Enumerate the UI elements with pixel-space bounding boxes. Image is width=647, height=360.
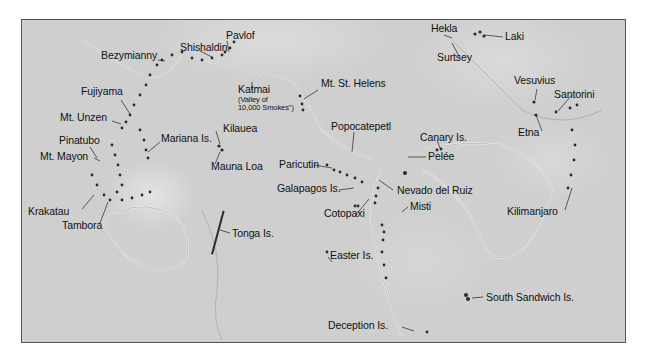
volcano-label-pinatubo: Pinatubo [59,135,100,146]
volcano-label-mariana-is: Mariana Is. [161,133,212,144]
volcano-label-krakatau: Krakatau [28,206,69,217]
world-volcano-map: Bezymianny Shishaldin Pavlof Katmai (Val… [21,19,626,343]
volcano-label-pelee: Pelée [428,151,454,162]
volcano-label-fujiyama: Fujiyama [81,86,123,97]
volcano-label-kilimanjaro: Kilimanjaro [507,206,558,217]
volcano-label-etna: Etna [518,127,539,138]
volcano-label-canary-is: Canary Is. [420,132,467,143]
volcano-label-cotopaxi: Cotopaxi [324,208,365,219]
volcano-label-surtsey: Surtsey [437,52,472,63]
volcano-sublabel-katmai-2: 10,000 Smokes") [238,104,294,112]
volcano-label-paricutin: Paricutin [279,159,319,170]
volcano-label-laki: Laki [505,31,524,42]
volcano-label-bezymianny: Bezymianny [101,50,157,61]
volcano-label-santorini: Santorini [554,89,595,100]
volcano-label-katmai: Katmai [238,84,270,95]
volcano-label-galapagos-is: Galapagos Is. [277,183,341,194]
volcano-label-mauna-loa: Mauna Loa [211,161,263,172]
volcano-label-mt-st-helens: Mt. St. Helens [321,78,386,89]
volcano-label-kilauea: Kilauea [223,123,257,134]
volcano-label-pavlof: Pavlof [226,30,255,41]
volcano-label-popocatepetl: Popocatepetl [331,121,391,132]
volcano-label-deception-is: Deception Is. [328,320,388,331]
volcano-label-tambora: Tambora [62,220,102,231]
volcano-label-vesuvius: Vesuvius [514,75,555,86]
volcano-label-misti: Misti [410,201,431,212]
volcano-label-mt-unzen: Mt. Unzen [60,112,107,123]
volcano-label-hekla: Hekla [431,23,457,34]
volcano-label-shishaldin: Shishaldin [180,42,227,53]
volcano-label-tonga-is: Tonga Is. [232,228,274,239]
volcano-label-easter-is: Easter Is. [330,250,373,261]
volcano-label-south-sandwich-is: South Sandwich Is. [486,292,574,303]
volcano-label-mt-mayon: Mt. Mayon [40,151,88,162]
volcano-label-nevado-del-ruiz: Nevado del Ruiz [397,185,473,196]
